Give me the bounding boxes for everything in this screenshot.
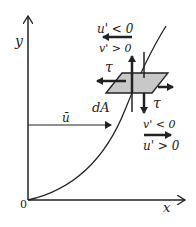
- bottom-annotation-line1: v' < 0: [143, 118, 175, 131]
- x-axis-label: x: [163, 200, 171, 215]
- shear-label-bottom: τ: [153, 95, 161, 111]
- turbulent-shear-diagram: y x 0 ū dA τ τ u' < 0 v' > 0 v' < 0 u' >…: [0, 0, 196, 227]
- bottom-annotation-line2: u' > 0: [143, 139, 180, 153]
- top-annotation-line2: v' > 0: [99, 42, 131, 55]
- origin-label: 0: [20, 198, 27, 211]
- top-annotation-line1: u' < 0: [97, 22, 134, 36]
- area-element-label: dA: [92, 100, 110, 115]
- shear-label-top: τ: [105, 59, 113, 75]
- mean-velocity-label: ū: [62, 111, 70, 125]
- y-axis-label: y: [14, 33, 24, 49]
- area-element-dA: [106, 73, 168, 93]
